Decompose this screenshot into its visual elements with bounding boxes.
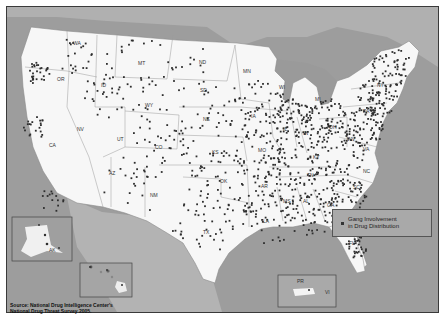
us-map: WAORCANVIDMTWYUTCOAZNMNDSDNEKSOKTXMNIAMO…: [7, 7, 438, 312]
state-label-ky: KY: [313, 154, 320, 160]
map-frame: WAORCANVIDMTWYUTCOAZNMNDSDNEKSOKTXMNIAMO…: [6, 6, 439, 313]
state-label-ca: CA: [49, 142, 57, 148]
state-label-ny: NY: [377, 82, 385, 88]
state-label-ok: OK: [220, 178, 228, 184]
state-label-ms: MS: [283, 198, 291, 204]
state-label-ga: GA: [327, 202, 335, 208]
state-label-wa: WA: [73, 40, 82, 46]
legend-box: Gang Involvement in Drug Distribution: [332, 209, 432, 237]
state-label-sc: SC: [353, 184, 360, 190]
state-label-in: IN: [303, 130, 308, 136]
state-label-nc: NC: [363, 168, 371, 174]
state-label-mn: MN: [243, 68, 251, 74]
state-label-va: VA: [363, 146, 370, 152]
state-label-sd: SD: [200, 87, 207, 93]
state-label-wy: WY: [145, 102, 154, 108]
state-label-il: IL: [283, 126, 287, 132]
state-label-wv: WV: [347, 136, 356, 142]
state-label-ut: UT: [117, 136, 124, 142]
state-label-ks: KS: [212, 149, 219, 155]
state-label-fl: FL: [349, 240, 355, 246]
state-label-ia: IA: [251, 113, 256, 119]
state-label-co: CO: [155, 144, 163, 150]
state-label-az: AZ: [109, 170, 115, 176]
state-label-nv: NV: [77, 126, 85, 132]
legend-line-2: in Drug Distribution: [348, 223, 399, 229]
state-label-al: AL: [303, 198, 309, 204]
alaska-label: AK: [49, 247, 56, 253]
legend-line-1: Gang Involvement: [348, 216, 397, 222]
state-label-ne: NE: [203, 116, 211, 122]
state-label-nm: NM: [150, 192, 158, 198]
state-label-la: LA: [263, 218, 270, 224]
state-label-nd: ND: [199, 59, 207, 65]
legend-label: Gang Involvement in Drug Distribution: [348, 216, 399, 230]
pr-label: PR: [297, 278, 304, 284]
vi-label: VI: [325, 289, 330, 295]
legend-dot-icon: [341, 222, 344, 225]
source-line-2: National Drug Threat Survey 2005.: [10, 308, 91, 314]
state-label-mo: MO: [258, 147, 266, 153]
state-label-tx: TX: [203, 229, 210, 235]
state-label-ar: AR: [261, 183, 268, 189]
state-label-id: ID: [101, 82, 106, 88]
state-label-mt: MT: [138, 60, 145, 66]
hawaii-inset-box: [80, 263, 132, 297]
state-label-wi: WI: [279, 84, 285, 90]
source-citation: Source: National Drug Intelligence Cente…: [10, 302, 113, 314]
state-label-tn: TN: [307, 172, 314, 178]
state-label-pa: PA: [363, 108, 370, 114]
state-label-mi: MI: [315, 96, 321, 102]
state-label-or: OR: [57, 76, 65, 82]
state-label-oh: OH: [329, 124, 337, 130]
